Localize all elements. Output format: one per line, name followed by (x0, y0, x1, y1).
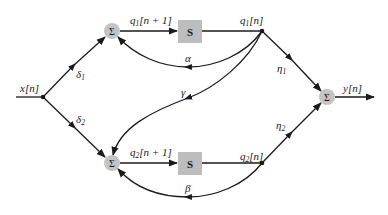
eta1-label: η1 (277, 62, 286, 76)
input-label: x[n] (19, 82, 39, 94)
sum-node-output: Σ (319, 89, 335, 105)
q1-next-label: q1[n + 1] (130, 14, 172, 28)
svg-text:Σ: Σ (109, 26, 115, 37)
edge-delta1 (43, 37, 105, 97)
sum-node-top: Σ (104, 23, 120, 39)
beta-label: β (184, 182, 191, 194)
svg-text:Σ: Σ (109, 158, 115, 169)
signal-flow-diagram: Σ S Σ S (0, 0, 388, 215)
sum-node-bottom: Σ (104, 155, 120, 171)
q2-next-label: q2[n + 1] (130, 146, 172, 160)
svg-text:S: S (187, 158, 193, 170)
delta2-label: δ2 (76, 113, 85, 127)
edge-gamma (113, 31, 262, 155)
delay-block-top: S (178, 20, 202, 43)
q2-label: q2[n] (240, 150, 263, 164)
q1-label: q1[n] (240, 14, 263, 28)
edge-eta1 (262, 31, 321, 91)
delta1-label: δ1 (76, 68, 85, 82)
svg-text:Σ: Σ (324, 92, 330, 103)
edge-eta2 (262, 103, 321, 163)
eta2-label: η2 (276, 119, 285, 133)
gamma-label: γ (181, 86, 186, 98)
edge-delta2 (43, 97, 105, 157)
svg-text:S: S (187, 26, 193, 38)
output-label: y[n] (342, 82, 362, 94)
delay-block-bottom: S (178, 152, 202, 175)
alpha-label: α (185, 52, 191, 64)
